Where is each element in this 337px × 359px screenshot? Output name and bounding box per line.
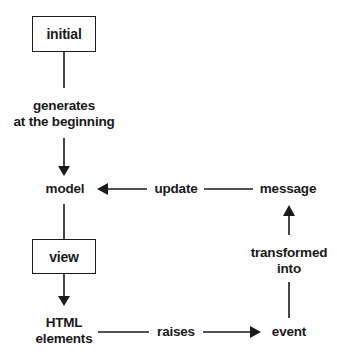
arrow-down-icon [58,166,70,176]
arrow-down-icon [58,296,70,306]
model-label: model [46,181,85,197]
view-box: view [32,239,96,274]
generates-line1: generates [13,98,114,114]
transformed-into-label: transformed into [251,245,328,277]
view-label: view [49,249,79,265]
event-label: event [272,324,306,340]
html-line2: elements [36,331,93,347]
transformed-line1: transformed [251,245,328,261]
elm-architecture-diagram: initial generates at the beginning model… [0,0,337,359]
raises-label: raises [157,324,195,340]
diagram-connectors [0,0,337,359]
arrow-left-icon [97,183,108,195]
initial-label: initial [46,26,81,42]
html-elements-label: HTML elements [36,315,93,347]
initial-box: initial [32,16,96,52]
update-label: update [154,181,197,197]
transformed-line2: into [251,261,328,277]
arrow-up-icon [283,205,295,216]
arrow-right-icon [250,326,261,338]
generates-line2: at the beginning [13,114,114,130]
html-line1: HTML [36,315,93,331]
generates-label: generates at the beginning [13,98,114,130]
message-label: message [260,181,316,197]
